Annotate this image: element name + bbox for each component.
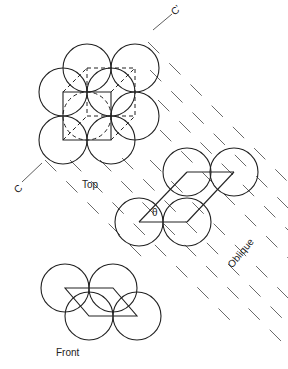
axis-segment <box>153 14 172 30</box>
label-top: Top <box>82 179 99 190</box>
projection-line <box>122 158 288 336</box>
projection-line <box>148 42 288 194</box>
diagram-canvas: Top Front θ C C' Oblique <box>0 0 288 369</box>
projection-line <box>150 70 288 220</box>
label-c: C <box>12 182 25 195</box>
axis-segment <box>22 163 42 182</box>
projection-line <box>150 160 288 310</box>
front-view <box>41 264 161 340</box>
projection-line <box>45 160 150 265</box>
label-front: Front <box>56 347 80 358</box>
cell-edge <box>139 172 187 222</box>
projection-line <box>100 160 288 360</box>
projection-lines <box>45 42 288 360</box>
c-axis-line <box>22 14 172 182</box>
crystal-packing-diagram: Top Front θ C C' Oblique <box>0 0 288 369</box>
top-view <box>39 44 159 164</box>
unit-cell-parallelogram <box>65 288 137 316</box>
projection-line <box>158 100 288 242</box>
label-theta: θ <box>152 207 158 218</box>
oblique-view <box>115 148 258 246</box>
projection-line <box>160 130 288 270</box>
label-oblique: Oblique <box>225 236 256 270</box>
